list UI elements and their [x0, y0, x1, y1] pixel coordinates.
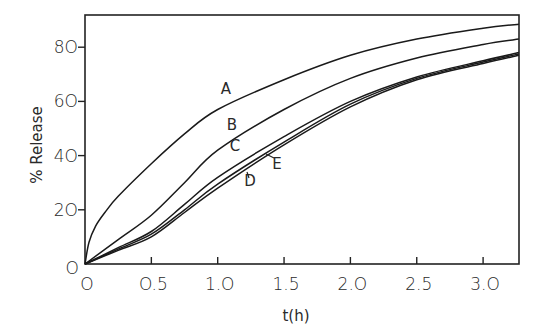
x-tick-label: 1.O [205, 274, 235, 294]
y-tick-label: 6O [54, 91, 78, 111]
x-tick-label: O [80, 274, 93, 294]
plot-border [85, 15, 519, 264]
curve-label-d: D [244, 172, 256, 190]
y-tick-label: O [66, 258, 79, 278]
plot-frame [85, 15, 519, 264]
y-tick-label: 2O [54, 200, 78, 220]
release-chart: OO.51.O1.52.O2.53.OO2O4O6O8O ABCDEt(h)% … [0, 0, 549, 332]
curve-label-c: C [230, 137, 240, 155]
curve-c [85, 53, 519, 264]
curve-label-b: B [227, 116, 237, 134]
curves [85, 24, 519, 264]
y-tick-label: 8O [54, 37, 78, 57]
x-tick-label: 3.O [470, 274, 500, 294]
x-tick-label: 2.O [338, 274, 368, 294]
y-axis-title: % Release [28, 106, 46, 184]
x-axis-title: t(h) [282, 307, 309, 325]
curve-a [85, 24, 519, 264]
x-tick-label: 1.5 [273, 274, 300, 294]
x-tick-label: 2.5 [405, 274, 432, 294]
x-tick-label: O.5 [139, 274, 168, 294]
y-tick-label: 4O [54, 146, 78, 166]
curve-label-a: A [221, 80, 232, 98]
